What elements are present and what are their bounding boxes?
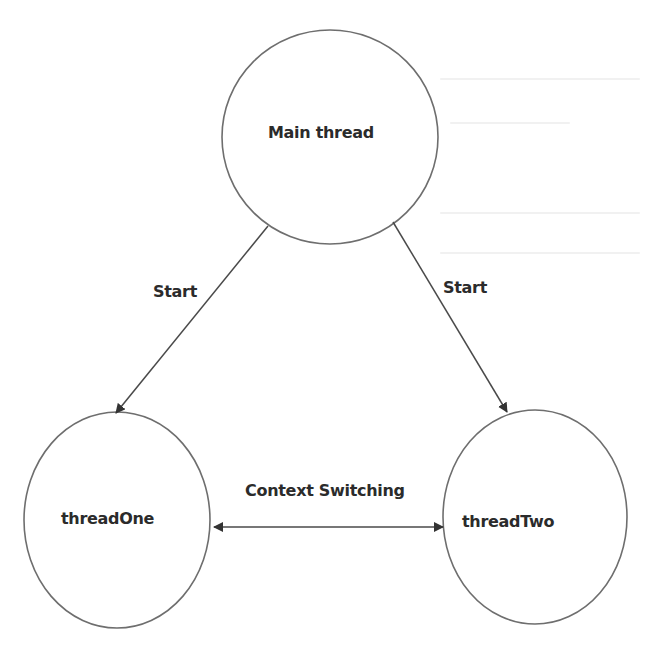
scan-texture (440, 78, 640, 80)
start-label-right: Start (443, 280, 487, 296)
thread-two-label: threadTwo (462, 514, 554, 530)
thread-one-label: threadOne (61, 511, 154, 527)
scan-texture (440, 252, 640, 254)
start-label-left: Start (153, 284, 197, 300)
start-edge-to-thread-one (116, 226, 268, 413)
thread-diagram-canvas (0, 0, 648, 657)
scan-texture (440, 212, 640, 214)
main-thread-label: Main thread (268, 125, 374, 141)
start-edge-to-thread-two (393, 222, 507, 412)
context-switching-label: Context Switching (245, 483, 405, 499)
scan-texture (450, 122, 570, 124)
